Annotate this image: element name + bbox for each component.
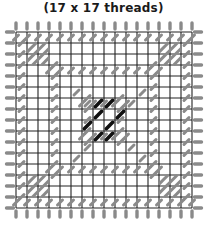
grid-lines [16,32,192,208]
thread-grid-diagram [0,0,207,229]
